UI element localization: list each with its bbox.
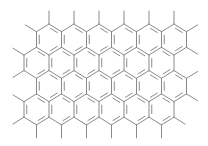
bond — [137, 24, 150, 32]
bond — [137, 47, 150, 55]
bond — [49, 117, 62, 125]
bond — [62, 94, 75, 102]
bond — [174, 24, 187, 32]
bond — [37, 94, 50, 102]
bond — [162, 94, 175, 102]
bond — [124, 47, 137, 55]
bond — [99, 47, 112, 55]
bond — [149, 71, 162, 79]
methyl-substituent — [187, 47, 198, 54]
bond — [149, 47, 162, 55]
methyl-substituent — [13, 71, 24, 78]
bond — [112, 94, 125, 102]
methyl-substituent — [13, 117, 24, 124]
bond — [74, 117, 87, 125]
bond — [62, 47, 75, 55]
bond — [24, 94, 37, 102]
bond — [24, 117, 37, 125]
bond — [112, 117, 125, 125]
bond — [124, 94, 137, 102]
bond — [174, 94, 187, 102]
methyl-substituent — [13, 95, 24, 102]
bond — [74, 94, 87, 102]
bond — [24, 71, 37, 79]
hexagonal-ring-structure — [0, 0, 208, 146]
bond — [99, 94, 112, 102]
bond — [74, 47, 87, 55]
bond — [74, 24, 87, 32]
molecule-diagram — [0, 0, 208, 146]
methyl-substituent — [13, 48, 24, 55]
bond — [62, 117, 75, 125]
bond — [87, 47, 100, 55]
bond — [137, 117, 150, 125]
bond — [137, 71, 150, 79]
bond — [149, 94, 162, 102]
bond — [37, 24, 50, 32]
bond — [174, 71, 187, 79]
methyl-substituent — [25, 25, 36, 32]
bond — [37, 71, 50, 79]
bond — [49, 24, 62, 32]
bond — [87, 71, 100, 79]
bond — [37, 47, 50, 55]
bond — [174, 47, 187, 55]
bond — [49, 94, 62, 102]
methyl-substituent — [187, 72, 198, 79]
bond — [74, 71, 87, 79]
bond — [162, 71, 175, 79]
bond — [87, 117, 100, 125]
bond — [87, 94, 100, 102]
bond — [62, 24, 75, 32]
bond — [137, 94, 150, 102]
methyl-substituent — [174, 117, 185, 124]
bond — [149, 117, 162, 125]
bond — [112, 47, 125, 55]
bond — [87, 24, 100, 32]
bond — [99, 24, 112, 32]
bond — [37, 117, 50, 125]
bond — [124, 71, 137, 79]
methyl-substituent — [187, 25, 198, 32]
bond — [162, 24, 175, 32]
bond — [99, 117, 112, 125]
bond — [112, 24, 125, 32]
bond — [124, 117, 137, 125]
bond — [162, 117, 175, 125]
bond — [124, 24, 137, 32]
bond — [149, 24, 162, 32]
bond — [24, 47, 37, 55]
bond — [162, 47, 175, 55]
bond — [112, 71, 125, 79]
bond — [99, 71, 112, 79]
bond — [62, 71, 75, 79]
bond — [49, 71, 62, 79]
bond — [49, 47, 62, 55]
methyl-substituent — [187, 94, 198, 101]
